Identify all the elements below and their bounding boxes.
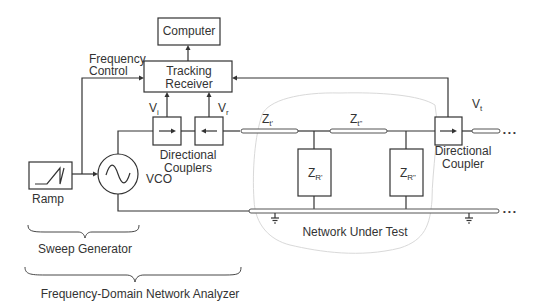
transmission-line-zt2 xyxy=(330,129,387,133)
network-under-test-label: Network Under Test xyxy=(302,225,408,239)
vi-label: Vi xyxy=(149,101,159,117)
directional-coupler-reverse xyxy=(195,117,223,145)
tracking-receiver-label-1: Tracking xyxy=(166,64,212,78)
directional-coupler-forward xyxy=(153,117,181,145)
vt-label: Vt xyxy=(472,97,483,113)
directional-coupler-output xyxy=(435,117,462,145)
continuation-dots-bottom: • • • xyxy=(503,207,516,216)
vr-label: Vr xyxy=(218,101,229,117)
vco-block xyxy=(98,154,138,194)
coupler-label-1: Directional xyxy=(435,144,492,158)
frequency-control-label-2: Control xyxy=(89,64,128,78)
zt2-label: Zt" xyxy=(350,112,363,128)
sweep-generator-label: Sweep Generator xyxy=(38,242,132,256)
transmission-line-bottom xyxy=(249,209,499,213)
arrow-up-icon xyxy=(186,45,191,50)
continuation-dots-top: • • • xyxy=(503,128,516,137)
ground-icon xyxy=(271,213,279,223)
tracking-receiver-label-2: Receiver xyxy=(165,77,212,91)
ground-icon xyxy=(465,213,473,223)
network-analyzer-brace xyxy=(25,267,241,282)
coupler-label-2: Coupler xyxy=(442,157,484,171)
transmission-line-output xyxy=(472,129,500,133)
computer-block: Computer xyxy=(158,18,220,45)
network-analyzer-diagram: Computer Tracking Receiver Frequency Con… xyxy=(0,0,548,305)
zt1-label: Zt' xyxy=(262,112,274,128)
couplers-label-1: Directional xyxy=(160,148,217,162)
vco-label: VCO xyxy=(146,172,172,186)
computer-label: Computer xyxy=(163,24,216,38)
tracking-receiver-block: Tracking Receiver xyxy=(144,61,232,92)
ramp-block xyxy=(29,162,72,189)
impedance-zr1: ZR' xyxy=(298,149,331,196)
impedance-zr2: ZR" xyxy=(390,149,423,196)
sweep-generator-brace xyxy=(28,225,139,238)
transmission-line-zt1 xyxy=(241,129,298,133)
network-analyzer-label: Frequency-Domain Network Analyzer xyxy=(41,287,240,301)
ramp-label: Ramp xyxy=(32,192,64,206)
